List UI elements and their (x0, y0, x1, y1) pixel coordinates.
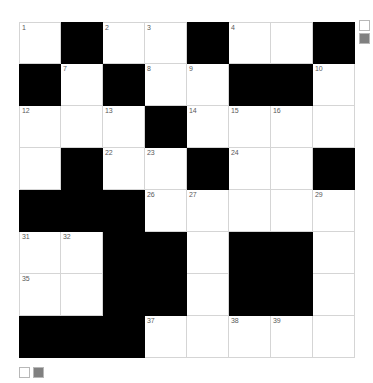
cell-number: 1 (22, 23, 26, 32)
cell-number: 7 (63, 64, 67, 73)
grid-cell-open[interactable]: 10 (313, 64, 355, 106)
grid-cell-open[interactable] (313, 274, 355, 316)
cell-number: 26 (147, 190, 154, 199)
grid-cell-block (187, 148, 229, 190)
grid-cell-open[interactable]: 16 (271, 106, 313, 148)
cell-number: 8 (147, 64, 151, 73)
grid-cell-open[interactable]: 12 (19, 106, 61, 148)
grid-cell-open[interactable]: 14 (187, 106, 229, 148)
grid-cell-block (19, 190, 61, 232)
grid-cell-open[interactable]: 37 (145, 316, 187, 358)
grid-cell-open[interactable] (229, 190, 271, 232)
grid-cell-open[interactable]: 3 (145, 22, 187, 64)
grid-cell-block (103, 190, 145, 232)
grid-cell-block (271, 64, 313, 106)
grid-cell-open[interactable] (313, 106, 355, 148)
crossword-puzzle: 1234789101213141516222324262729313235373… (0, 0, 373, 383)
swatch-gray[interactable] (33, 367, 44, 378)
swatch-white[interactable] (359, 20, 370, 31)
grid-cell-block (19, 316, 61, 358)
grid-cell-block (145, 274, 187, 316)
grid-cell-open[interactable]: 27 (187, 190, 229, 232)
swatch-white[interactable] (19, 367, 30, 378)
grid-cell-open[interactable]: 2 (103, 22, 145, 64)
cell-number: 2 (105, 23, 109, 32)
cell-number: 29 (315, 190, 322, 199)
cell-number: 23 (147, 148, 154, 157)
cell-number: 22 (105, 148, 112, 157)
cell-number: 13 (105, 106, 112, 115)
grid-cell-open[interactable]: 24 (229, 148, 271, 190)
grid-cell-block (61, 316, 103, 358)
grid-cell-open[interactable] (61, 106, 103, 148)
legend-top-right (359, 20, 370, 44)
grid-cell-open[interactable]: 23 (145, 148, 187, 190)
grid-cell-open[interactable]: 22 (103, 148, 145, 190)
swatch-gray[interactable] (359, 33, 370, 44)
grid-cell-block (229, 64, 271, 106)
grid-cell-open[interactable] (19, 148, 61, 190)
grid-cell-open[interactable]: 1 (19, 22, 61, 64)
grid-cell-open[interactable]: 13 (103, 106, 145, 148)
grid-cell-open[interactable] (61, 274, 103, 316)
cell-number: 16 (273, 106, 280, 115)
grid-cell-open[interactable]: 15 (229, 106, 271, 148)
cell-number: 12 (22, 106, 29, 115)
cell-number: 35 (22, 274, 29, 283)
cell-number: 15 (231, 106, 238, 115)
grid-cell-block (271, 232, 313, 274)
grid-cell-open[interactable]: 29 (313, 190, 355, 232)
grid-cell-open[interactable]: 31 (19, 232, 61, 274)
cell-number: 3 (147, 23, 151, 32)
grid-cell-block (229, 232, 271, 274)
grid-cell-block (145, 232, 187, 274)
grid-cell-open[interactable]: 39 (271, 316, 313, 358)
grid-cell-open[interactable] (271, 190, 313, 232)
grid-cell-open[interactable] (187, 232, 229, 274)
grid-cell-open[interactable]: 8 (145, 64, 187, 106)
grid-cell-open[interactable]: 38 (229, 316, 271, 358)
grid-cell-open[interactable] (313, 232, 355, 274)
cell-number: 4 (231, 23, 235, 32)
crossword-grid[interactable]: 1234789101213141516222324262729313235373… (19, 22, 355, 358)
grid-cell-block (313, 22, 355, 64)
grid-cell-block (103, 316, 145, 358)
grid-cell-block (313, 148, 355, 190)
cell-number: 10 (315, 64, 322, 73)
grid-cell-block (103, 232, 145, 274)
grid-cell-block (61, 190, 103, 232)
grid-cell-open[interactable]: 7 (61, 64, 103, 106)
grid-cell-block (61, 148, 103, 190)
cell-number: 37 (147, 316, 154, 325)
grid-cell-open[interactable] (271, 148, 313, 190)
grid-cell-open[interactable] (187, 316, 229, 358)
grid-cell-block (229, 274, 271, 316)
grid-cell-open[interactable]: 26 (145, 190, 187, 232)
cell-number: 24 (231, 148, 238, 157)
grid-cell-open[interactable] (187, 274, 229, 316)
grid-cell-block (19, 64, 61, 106)
cell-number: 27 (189, 190, 196, 199)
grid-cell-open[interactable] (313, 316, 355, 358)
cell-number: 9 (189, 64, 193, 73)
cell-number: 14 (189, 106, 196, 115)
grid-cell-open[interactable]: 32 (61, 232, 103, 274)
cell-number: 32 (63, 232, 70, 241)
grid-cell-open[interactable]: 9 (187, 64, 229, 106)
cell-number: 38 (231, 316, 238, 325)
grid-cell-open[interactable] (271, 22, 313, 64)
cell-number: 39 (273, 316, 280, 325)
grid-cell-block (271, 274, 313, 316)
grid-cell-block (103, 274, 145, 316)
grid-cell-open[interactable]: 4 (229, 22, 271, 64)
grid-cell-block (145, 106, 187, 148)
grid-cell-open[interactable]: 35 (19, 274, 61, 316)
grid-cell-block (61, 22, 103, 64)
grid-cell-block (187, 22, 229, 64)
grid-cell-block (103, 64, 145, 106)
legend-bottom-left (19, 367, 44, 378)
cell-number: 31 (22, 232, 29, 241)
